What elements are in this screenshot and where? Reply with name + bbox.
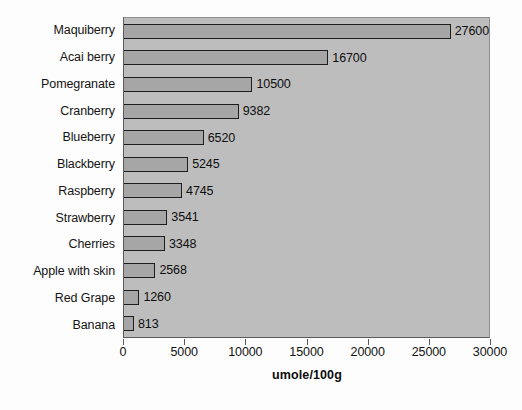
bar-value-label: 6520 xyxy=(208,131,235,145)
category-label: Maquiberry xyxy=(53,23,115,37)
category-label-row: Raspberry xyxy=(0,178,120,205)
bar[interactable] xyxy=(124,316,134,331)
category-label-row: Red Grape xyxy=(0,285,120,312)
bar-value-label: 4745 xyxy=(186,184,213,198)
category-label: Blackberry xyxy=(57,157,115,171)
bar-row: 9382 xyxy=(124,98,489,125)
x-axis-tick-label: 10000 xyxy=(228,345,262,359)
category-label-row: Cranberry xyxy=(0,97,120,124)
bar-value-label: 9382 xyxy=(243,104,270,118)
bar[interactable] xyxy=(124,290,139,305)
bar-value-label: 3541 xyxy=(171,210,198,224)
bar-value-label: 813 xyxy=(138,317,159,331)
bar-value-label: 16700 xyxy=(332,51,366,65)
bar-value-label: 2568 xyxy=(159,263,186,277)
bar-row: 813 xyxy=(124,310,489,337)
bar[interactable] xyxy=(124,77,252,92)
bar-row: 3541 xyxy=(124,204,489,231)
bar[interactable] xyxy=(124,157,188,172)
x-axis-tick-label: 20000 xyxy=(351,345,385,359)
bar-row: 27600 xyxy=(124,18,489,45)
category-label: Acai berry xyxy=(60,50,115,64)
bar[interactable] xyxy=(124,183,182,198)
bar-value-label: 1260 xyxy=(143,290,170,304)
x-axis-tick-labels: 050001000015000200002500030000 xyxy=(0,345,522,363)
bar[interactable] xyxy=(124,104,239,119)
bar[interactable] xyxy=(124,263,155,278)
category-label-row: Pomegranate xyxy=(0,71,120,98)
category-label: Red Grape xyxy=(55,291,115,305)
x-axis-tick-label: 15000 xyxy=(289,345,323,359)
bar-value-label: 10500 xyxy=(256,77,290,91)
category-axis-labels: Maquiberry Acai berry Pomegranate Cranbe… xyxy=(0,17,120,338)
bar-row: 10500 xyxy=(124,71,489,98)
category-label: Cherries xyxy=(69,237,115,251)
bar[interactable] xyxy=(124,50,328,65)
bar-chart-figure: Maquiberry Acai berry Pomegranate Cranbe… xyxy=(0,0,522,410)
category-label: Pomegranate xyxy=(41,77,115,91)
category-label-row: Cherries xyxy=(0,231,120,258)
bar-row: 1260 xyxy=(124,284,489,311)
category-label-row: Strawberry xyxy=(0,204,120,231)
category-label: Raspberry xyxy=(58,184,115,198)
bar[interactable] xyxy=(124,130,204,145)
bar-row: 16700 xyxy=(124,45,489,72)
bar[interactable] xyxy=(124,210,167,225)
bar[interactable] xyxy=(124,24,451,39)
category-label-row: Banana xyxy=(0,311,120,338)
bar-value-label: 3348 xyxy=(169,237,196,251)
x-axis-title: umole/100g xyxy=(123,368,491,382)
category-label-row: Blackberry xyxy=(0,151,120,178)
category-label-row: Maquiberry xyxy=(0,17,120,44)
x-axis-tick-label: 0 xyxy=(120,345,127,359)
plot-area: 27600 16700 10500 9382 6520 5245 xyxy=(123,17,490,338)
bar[interactable] xyxy=(124,236,165,251)
category-label-row: Acai berry xyxy=(0,44,120,71)
bar-value-label: 27600 xyxy=(455,24,489,38)
category-label: Strawberry xyxy=(56,211,115,225)
x-axis-tick-label: 25000 xyxy=(412,345,446,359)
bar-row: 6520 xyxy=(124,124,489,151)
bar-row: 5245 xyxy=(124,151,489,178)
bar-row: 2568 xyxy=(124,257,489,284)
bar-row: 4745 xyxy=(124,177,489,204)
category-label: Apple with skin xyxy=(33,264,115,278)
x-axis-tick-label: 30000 xyxy=(473,345,507,359)
category-label: Blueberry xyxy=(62,130,115,144)
category-label-row: Blueberry xyxy=(0,124,120,151)
category-label-row: Apple with skin xyxy=(0,258,120,285)
category-label: Banana xyxy=(73,318,116,332)
bars-layer: 27600 16700 10500 9382 6520 5245 xyxy=(124,18,489,337)
category-label: Cranberry xyxy=(60,104,115,118)
bar-row: 3348 xyxy=(124,231,489,258)
x-axis-tick-label: 5000 xyxy=(170,345,197,359)
bar-value-label: 5245 xyxy=(192,157,219,171)
